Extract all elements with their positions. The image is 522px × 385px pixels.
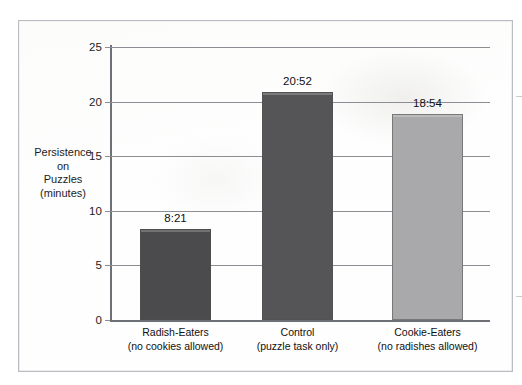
bar-value-label: 18:54 — [378, 97, 477, 109]
bar-radish-eaters — [140, 229, 211, 320]
y-axis-tick-mark — [105, 265, 110, 266]
y-axis-tick-label: 0 — [96, 314, 103, 326]
category-name: Cookie-Eaters — [358, 326, 498, 340]
y-axis-tick-mark — [105, 47, 110, 48]
y-axis-tick-mark — [105, 156, 110, 157]
bar-control — [262, 92, 333, 320]
bar-fill — [263, 93, 332, 319]
category-name: Radish-Eaters — [106, 326, 246, 340]
page-edge-mark-top — [516, 96, 522, 97]
y-axis-tick-label: 15 — [89, 150, 102, 162]
category-label-2: Control(puzzle task only) — [228, 326, 368, 353]
bar-fill — [393, 115, 462, 319]
category-sublabel: (no cookies allowed) — [106, 340, 246, 354]
bar-value-label: 8:21 — [126, 212, 225, 224]
category-name: Control — [228, 326, 368, 340]
page-edge-mark-bottom — [516, 296, 522, 297]
y-axis-tick-label: 5 — [96, 259, 103, 271]
bar-value-label: 20:52 — [248, 75, 347, 87]
category-sublabel: (puzzle task only) — [228, 340, 368, 354]
y-axis-tick-label: 10 — [89, 205, 102, 217]
bar-cookie-eaters — [392, 114, 463, 320]
x-axis-baseline — [110, 320, 490, 322]
y-axis-tick-mark — [105, 211, 110, 212]
y-axis-tick-label: 20 — [89, 96, 102, 108]
category-sublabel: (no radishes allowed) — [358, 340, 498, 354]
plot-area: 8:2120:5218:54 — [110, 47, 490, 320]
bar-fill — [141, 230, 210, 319]
y-axis-tick-label: 25 — [89, 41, 102, 53]
y-axis-tick-mark — [105, 320, 110, 321]
y-axis-tick-mark — [105, 102, 110, 103]
gridline — [110, 47, 490, 48]
y-axis-tick-labels: 0510152025 — [78, 47, 102, 320]
category-label-1: Radish-Eaters(no cookies allowed) — [106, 326, 246, 353]
category-label-3: Cookie-Eaters(no radishes allowed) — [358, 326, 498, 353]
